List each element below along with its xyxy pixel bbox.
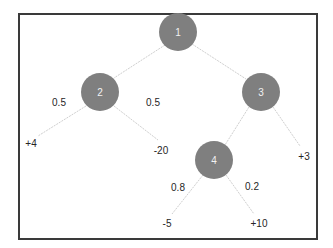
node-label: 3 bbox=[258, 87, 264, 98]
node-label: 1 bbox=[175, 27, 181, 38]
edge-probability-label: 0.5 bbox=[146, 97, 160, 108]
leaf-value: -20 bbox=[154, 145, 168, 156]
chance-node-4: 4 bbox=[195, 141, 233, 179]
node-label: 2 bbox=[97, 87, 103, 98]
edge-probability-label: 0.5 bbox=[52, 97, 66, 108]
edge-3-4 bbox=[225, 107, 249, 145]
node-label: 4 bbox=[211, 155, 217, 166]
decision-node-1: 1 bbox=[159, 13, 197, 51]
decision-node-3: 3 bbox=[242, 73, 280, 111]
chance-node-2: 2 bbox=[81, 73, 119, 111]
edge-2-minus20 bbox=[114, 106, 158, 140]
leaf-value: +10 bbox=[251, 218, 268, 229]
edge-2-plus4 bbox=[38, 106, 86, 136]
leaf-value: +4 bbox=[25, 138, 36, 149]
edge-probability-label: 0.2 bbox=[245, 181, 259, 192]
edge-probability-label: 0.8 bbox=[171, 182, 185, 193]
edge-1-2 bbox=[114, 45, 165, 78]
edge-1-3 bbox=[192, 44, 246, 79]
edge-3-plus3 bbox=[273, 107, 300, 146]
leaf-value: +3 bbox=[298, 151, 309, 162]
leaf-value: -5 bbox=[163, 218, 172, 229]
